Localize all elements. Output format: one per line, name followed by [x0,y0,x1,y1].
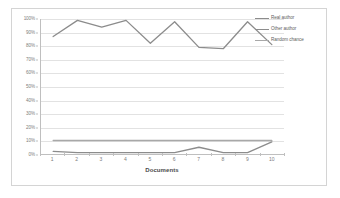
x-tick-mark [162,153,163,156]
legend-swatch-icon [255,29,269,31]
x-tick-label: 5 [148,157,151,162]
y-tick-label: 60% [26,71,35,76]
x-tick-mark [138,153,139,156]
x-tick-label: 9 [246,157,249,162]
legend-label: Real author [271,16,294,21]
y-tick-mark [36,73,38,74]
y-tick-mark [36,46,38,47]
y-tick-label: 30% [26,112,35,117]
x-tick-label: 4 [124,157,127,162]
chart-frame: 100%90%80%70%60%50%40%30%20%10%0% 123456… [11,8,327,186]
y-tick-mark [36,141,38,142]
y-tick-mark [36,87,38,88]
y-tick-mark [36,114,38,115]
y-axis: 100%90%80%70%60%50%40%30%20%10%0% [12,19,38,155]
x-axis: 12345678910 [40,156,284,166]
legend-swatch-icon [255,40,269,42]
series-line-real-author [53,20,272,48]
y-tick-label: 0% [29,153,35,158]
x-tick-label: 6 [173,157,176,162]
legend-label: Random chance [271,38,304,43]
y-tick-label: 80% [26,44,35,49]
y-tick-label: 20% [26,126,35,131]
legend-item-other-author[interactable]: Other author [255,25,321,34]
y-tick-label: 50% [26,85,35,90]
legend-label: Other author [271,27,296,32]
legend-item-random-chance[interactable]: Random chance [255,36,321,45]
series-line-other-author [53,142,272,153]
y-tick-label: 40% [26,98,35,103]
chart-legend: Real authorOther authorRandom chance [255,14,321,47]
x-tick-mark [284,153,285,156]
y-tick-mark [36,19,38,20]
legend-item-real-author[interactable]: Real author [255,14,321,23]
x-tick-mark [40,153,41,156]
x-axis-title: Documents [40,167,284,173]
plot-area [40,19,284,155]
x-tick-label: 2 [75,157,78,162]
y-tick-label: 70% [26,58,35,63]
legend-swatch-icon [255,18,269,20]
x-tick-mark [64,153,65,156]
y-tick-label: 10% [26,139,35,144]
y-tick-mark [36,100,38,101]
y-tick-label: 100% [24,17,35,22]
y-tick-mark [36,127,38,128]
x-tick-mark [113,153,114,156]
x-tick-mark [235,153,236,156]
x-tick-label: 10 [269,157,275,162]
x-tick-mark [186,153,187,156]
x-tick-mark [211,153,212,156]
x-tick-label: 3 [100,157,103,162]
y-tick-mark [36,59,38,60]
x-tick-mark [260,153,261,156]
y-tick-label: 90% [26,30,35,35]
x-tick-label: 7 [197,157,200,162]
series-layer [41,19,284,154]
y-tick-mark [36,155,38,156]
x-tick-label: 8 [222,157,225,162]
y-tick-mark [36,32,38,33]
x-tick-label: 1 [51,157,54,162]
x-tick-mark [89,153,90,156]
